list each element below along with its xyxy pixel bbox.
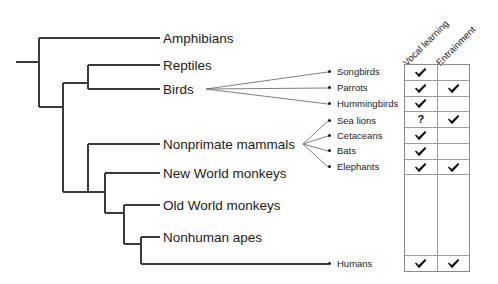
clade-label-new-world-monkeys: New World monkeys — [163, 167, 287, 181]
check-icon — [447, 114, 460, 125]
tip-dot-parrots — [328, 86, 331, 89]
cell-elephants-vocal-learning — [405, 160, 438, 175]
fan-mammals-sea-lions — [303, 121, 328, 144]
tip-label-sea-lions: Sea lions — [337, 116, 376, 126]
check-icon — [414, 162, 427, 173]
cell-hummingbirds-entrainment — [438, 97, 470, 112]
clade-label-nonprimate-mammals: Nonprimate mammals — [163, 138, 295, 152]
check-icon — [447, 258, 460, 269]
table-row — [405, 256, 469, 271]
check-icon — [414, 130, 427, 141]
tip-label-parrots: Parrots — [337, 83, 368, 93]
clade-label-amphibians: Amphibians — [163, 32, 234, 46]
tip-dot-elephants — [328, 165, 331, 168]
check-icon — [447, 83, 460, 94]
cell-parrots-entrainment — [438, 81, 470, 96]
check-icon — [414, 67, 427, 78]
check-icon — [414, 258, 427, 269]
cell-bats-vocal-learning — [405, 144, 438, 159]
cell-sea-lions-vocal-learning: ? — [405, 112, 438, 127]
tip-dot-hummingbirds — [328, 102, 331, 105]
question-mark-glyph: ? — [417, 114, 424, 125]
table-row-empty — [405, 175, 469, 256]
tip-label-songbirds: Songbirds — [337, 67, 380, 77]
tip-label-cetaceans: Cetaceans — [337, 131, 382, 141]
cell-songbirds-entrainment — [438, 65, 470, 80]
tip-label-bats: Bats — [337, 146, 356, 156]
table-row — [405, 65, 469, 81]
check-icon — [414, 98, 427, 109]
clade-label-birds: Birds — [163, 83, 194, 97]
trait-matrix-table: ? — [404, 64, 470, 272]
cell-empty-entrainment — [438, 175, 470, 255]
cell-parrots-vocal-learning — [405, 81, 438, 96]
table-row — [405, 128, 469, 144]
cell-humans-vocal-learning — [405, 256, 438, 271]
tip-label-humans: Humans — [337, 259, 372, 269]
cell-sea-lions-entrainment — [438, 112, 470, 127]
table-row — [405, 97, 469, 113]
cell-hummingbirds-vocal-learning — [405, 97, 438, 112]
fan-birds-songbirds — [206, 72, 328, 89]
tip-dot-humans — [328, 262, 331, 265]
cell-cetaceans-entrainment — [438, 128, 470, 143]
table-row — [405, 81, 469, 97]
cell-bats-entrainment — [438, 144, 470, 159]
tip-dot-sea-lions — [328, 119, 331, 122]
tip-label-hummingbirds: Hummingbirds — [337, 99, 398, 109]
fan-birds-hummingbirds — [206, 89, 328, 104]
check-icon — [447, 162, 460, 173]
cell-songbirds-vocal-learning — [405, 65, 438, 80]
table-row — [405, 144, 469, 160]
cell-elephants-entrainment — [438, 160, 470, 175]
tip-dot-songbirds — [328, 70, 331, 73]
figure-phylogenetic-tree: Amphibians Reptiles Birds Nonprimate mam… — [0, 0, 498, 284]
clade-label-old-world-monkeys: Old World monkeys — [163, 199, 281, 213]
cell-cetaceans-vocal-learning — [405, 128, 438, 143]
tip-label-elephants: Elephants — [337, 162, 379, 172]
table-row — [405, 160, 469, 176]
clade-label-reptiles: Reptiles — [163, 59, 212, 73]
cell-empty-vocal-learning — [405, 175, 438, 255]
check-icon — [414, 83, 427, 94]
tip-dot-cetaceans — [328, 134, 331, 137]
table-row: ? — [405, 112, 469, 128]
cell-humans-entrainment — [438, 256, 470, 271]
check-icon — [414, 146, 427, 157]
clade-label-nonhuman-apes: Nonhuman apes — [163, 231, 262, 245]
tip-dot-bats — [328, 149, 331, 152]
fan-birds-parrots — [206, 88, 328, 89]
